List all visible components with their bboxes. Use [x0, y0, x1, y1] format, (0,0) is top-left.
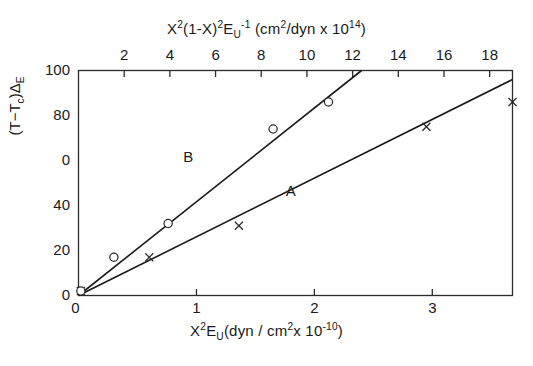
marker-circle-B	[324, 98, 332, 106]
fit-lines	[79, 71, 513, 296]
marker-circle-B	[269, 125, 277, 133]
marker-circle-B	[77, 287, 85, 295]
data-markers	[77, 98, 517, 295]
marker-circle-B	[164, 219, 172, 227]
plot-frame-rect	[79, 71, 513, 296]
marker-circle-B	[110, 253, 118, 261]
marker-cross-A	[235, 222, 243, 230]
marker-cross-A	[422, 123, 430, 131]
plot-canvas	[0, 0, 533, 366]
plot-frame	[79, 71, 513, 296]
figure-scatter-plot: X2(1-X)2EU-1 (cm2/dyn x 1014) X2EU(dyn /…	[0, 0, 533, 366]
fit-line-A	[79, 80, 513, 296]
fit-line-B	[79, 71, 362, 296]
axis-ticks	[124, 71, 489, 296]
